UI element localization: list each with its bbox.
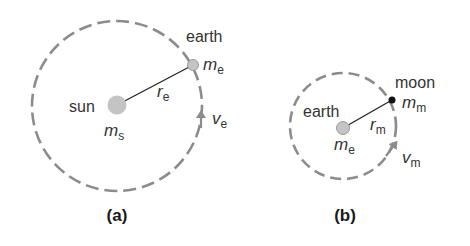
earth-label: earth (186, 28, 222, 45)
moon-mass-label: mm (402, 93, 426, 115)
sun-icon (108, 96, 127, 115)
earth-label: earth (303, 103, 339, 120)
earth-mass-label: me (334, 135, 355, 157)
panel-a: sun ms earth me re ve (a) (32, 21, 228, 225)
panel-a-label: (a) (107, 206, 128, 225)
radius-line-re (117, 65, 193, 105)
earth-mass-label: me (203, 55, 224, 77)
panel-b-label: (b) (334, 206, 356, 225)
earth-icon (188, 60, 199, 71)
moon-label: moon (395, 74, 435, 91)
radius-label-re: re (157, 82, 170, 104)
moon-icon (389, 97, 396, 104)
velocity-label-ve: ve (212, 109, 228, 131)
orbit-diagram: sun ms earth me re ve (a) earth me moon … (0, 0, 470, 246)
panel-b: earth me moon mm rm vm (b) (290, 73, 435, 225)
sun-mass-label: ms (104, 121, 124, 143)
velocity-arrow-vm (386, 144, 395, 156)
sun-label: sun (69, 98, 95, 115)
velocity-label-vm: vm (402, 148, 421, 170)
earth-icon (337, 122, 350, 135)
radius-label-rm: rm (370, 115, 386, 137)
